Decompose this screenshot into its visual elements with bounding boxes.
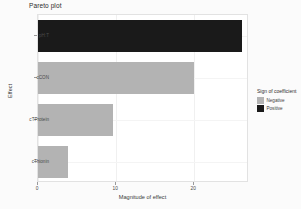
chart-title: Pareto plot	[29, 2, 62, 9]
x-tick-label: 0	[27, 186, 47, 191]
x-tick-mark	[193, 182, 194, 185]
x-tick-label: 20	[183, 186, 203, 191]
plot-panel	[37, 14, 248, 182]
legend: Sign of coefficient NegativePositive	[257, 88, 296, 113]
legend-entries: NegativePositive	[257, 97, 296, 113]
legend-item-label: Positive	[267, 106, 283, 111]
y-tick-label: cTProtein	[29, 117, 49, 122]
legend-swatch-icon	[257, 97, 264, 104]
x-tick-mark	[37, 182, 38, 185]
bar	[38, 20, 242, 53]
bar	[38, 62, 194, 95]
pareto-plot-figure: Pareto plot Effect pH:TcCONcTProteincThi…	[0, 0, 301, 209]
x-tick-label: 10	[105, 186, 125, 191]
y-tick-label: cThionin	[32, 159, 49, 164]
y-axis-title: Effect	[7, 71, 13, 111]
x-axis-title: Magnitude of effect	[37, 194, 248, 200]
legend-item-label: Negative	[267, 98, 285, 103]
gridline-horizontal	[38, 162, 247, 163]
y-tick-label: pH:T	[39, 33, 49, 38]
legend-title: Sign of coefficient	[257, 88, 296, 94]
y-tick-mark	[34, 35, 37, 36]
bar	[38, 104, 113, 137]
legend-swatch-icon	[257, 105, 264, 112]
legend-item[interactable]: Negative	[257, 97, 296, 105]
y-tick-label: cCON	[36, 75, 49, 80]
x-tick-mark	[115, 182, 116, 185]
legend-item[interactable]: Positive	[257, 105, 296, 113]
